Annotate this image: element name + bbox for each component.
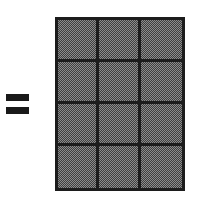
- grid-cell-r1c3: [141, 20, 182, 62]
- grid-cell-r2c2: [99, 62, 140, 104]
- grid-cell-r4c2: [99, 146, 140, 188]
- shaded-grid: [55, 17, 185, 191]
- figure-canvas: [0, 0, 203, 201]
- grid-cell-r2c1: [58, 62, 99, 104]
- equals-bar-top: [6, 94, 29, 101]
- equals-sign-icon: [6, 94, 29, 118]
- grid-cell-r2c3: [141, 62, 182, 104]
- grid-cell-r3c1: [58, 104, 99, 146]
- grid-cell-r3c3: [141, 104, 182, 146]
- grid-cell-r4c3: [141, 146, 182, 188]
- grid-cell-r1c1: [58, 20, 99, 62]
- equals-bar-bottom: [6, 107, 29, 114]
- grid-cell-r4c1: [58, 146, 99, 188]
- grid-cell-r3c2: [99, 104, 140, 146]
- grid-cell-r1c2: [99, 20, 140, 62]
